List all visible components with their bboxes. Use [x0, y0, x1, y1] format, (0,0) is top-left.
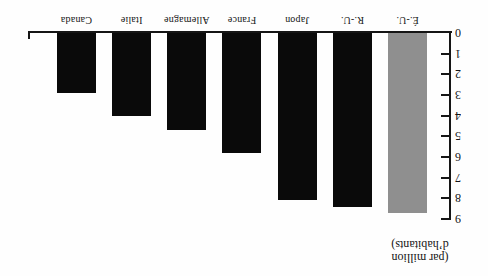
y-axis-tick	[441, 197, 451, 199]
category-label-italie: Italie	[104, 14, 160, 26]
y-axis-tick-label: 4	[455, 110, 485, 122]
y-axis-tick	[441, 53, 451, 55]
y-axis-tick-label: 2	[455, 68, 485, 80]
category-label-japon: Japon	[269, 14, 325, 26]
y-axis-tick-label: 7	[455, 172, 485, 184]
figure-canvas: (par million d’habitants) 0123456789É.-U…	[0, 0, 488, 276]
y-axis-tick	[441, 115, 451, 117]
bar-ru	[333, 33, 372, 207]
bar-chart-rotated-180: (par million d’habitants) 0123456789É.-U…	[0, 0, 488, 276]
bar-france	[222, 33, 261, 153]
y-axis-tick-label: 3	[455, 89, 485, 101]
y-axis-tick-label: 5	[455, 130, 485, 142]
category-label-france: France	[214, 14, 270, 26]
y-axis-tick-label: 8	[455, 192, 485, 204]
y-axis-tick-label: 9	[455, 213, 485, 225]
bar-japon	[278, 33, 317, 200]
category-label-canada: Canada	[48, 14, 104, 26]
y-axis-tick	[441, 94, 451, 96]
y-axis-title: (par million d’habitants)	[370, 238, 470, 264]
y-axis-line	[449, 31, 451, 219]
y-axis-tick	[441, 177, 451, 179]
y-axis-title-line1: (par million	[370, 251, 470, 264]
bar-italie	[112, 33, 151, 116]
category-label-allemagne: Allemagne	[159, 14, 215, 26]
bar-eu	[388, 33, 427, 213]
y-axis-tick	[441, 135, 451, 137]
y-axis-tick	[441, 156, 451, 158]
bar-canada	[57, 33, 96, 93]
category-label-ru: R.-U.	[324, 14, 380, 26]
x-axis-endcap	[28, 31, 30, 39]
y-axis-tick-label: 1	[455, 48, 485, 60]
category-label-eu: É.-U.	[380, 14, 436, 26]
y-axis-tick	[441, 73, 451, 75]
bar-allemagne	[167, 33, 206, 130]
y-axis-tick	[441, 218, 451, 220]
y-axis-tick-label: 6	[455, 151, 485, 163]
y-axis-title-line2: d’habitants)	[370, 238, 470, 251]
y-axis-tick-label: 0	[455, 27, 485, 39]
